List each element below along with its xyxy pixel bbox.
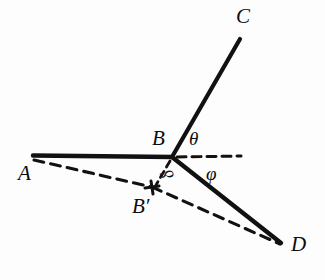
segment-Bprime-D (152, 187, 280, 244)
geometry-figure: A B C D B′ θ φ δ (0, 0, 325, 280)
reference-horizontal-from-B (177, 156, 241, 157)
dashed-line-group (34, 156, 280, 244)
segment-BD (172, 157, 281, 243)
point-label-C: C (236, 6, 250, 27)
segment-BC (172, 39, 240, 157)
point-label-B: B (152, 128, 165, 149)
angle-label-phi: φ (206, 164, 217, 183)
segment-A-Bprime (34, 160, 152, 187)
point-label-B-prime: B′ (132, 196, 149, 217)
angle-label-theta: θ (189, 129, 198, 148)
point-label-A: A (18, 163, 31, 184)
segment-AB (33, 156, 172, 158)
point-label-D: D (291, 234, 306, 255)
